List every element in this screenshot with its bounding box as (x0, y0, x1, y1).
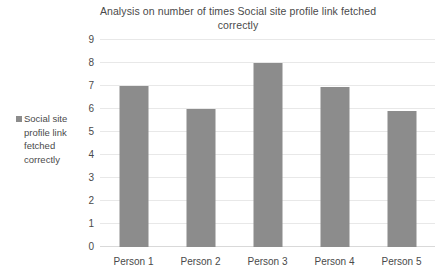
y-axis-tick-label: 0 (60, 242, 94, 252)
y-axis-tick-label: 1 (60, 219, 94, 229)
y-axis-tick-label: 7 (60, 81, 94, 91)
y-axis-tick-label: 3 (60, 173, 94, 183)
bar-group: Person 5 (368, 40, 435, 247)
bar (387, 111, 416, 247)
y-axis-tick-label: 6 (60, 104, 94, 114)
legend-color-swatch-icon (16, 116, 22, 122)
y-axis-tick-label: 9 (60, 35, 94, 45)
bar (320, 87, 349, 247)
bar (253, 63, 282, 247)
plot-area: 0123456789 Person 1Person 2Person 3Perso… (100, 40, 435, 247)
x-axis-tick-label: Person 3 (247, 256, 287, 267)
x-axis-tick-label: Person 4 (314, 256, 354, 267)
bar-series: Person 1Person 2Person 3Person 4Person 5 (100, 40, 435, 247)
x-axis-tick-label: Person 1 (113, 256, 153, 267)
y-axis-tick-label: 4 (60, 150, 94, 160)
chart-title: Analysis on number of times Social site … (88, 4, 388, 32)
bar-group: Person 4 (301, 40, 368, 247)
y-axis-tick-label: 5 (60, 127, 94, 137)
bar-group: Person 2 (167, 40, 234, 247)
x-axis-tick-label: Person 5 (381, 256, 421, 267)
x-axis-tick-label: Person 2 (180, 256, 220, 267)
bar-chart: Analysis on number of times Social site … (0, 0, 447, 278)
bar-group: Person 1 (100, 40, 167, 247)
bar (119, 86, 148, 247)
bar-group: Person 3 (234, 40, 301, 247)
y-axis-tick-label: 8 (60, 58, 94, 68)
y-axis-tick-label: 2 (60, 196, 94, 206)
bar (186, 109, 215, 247)
